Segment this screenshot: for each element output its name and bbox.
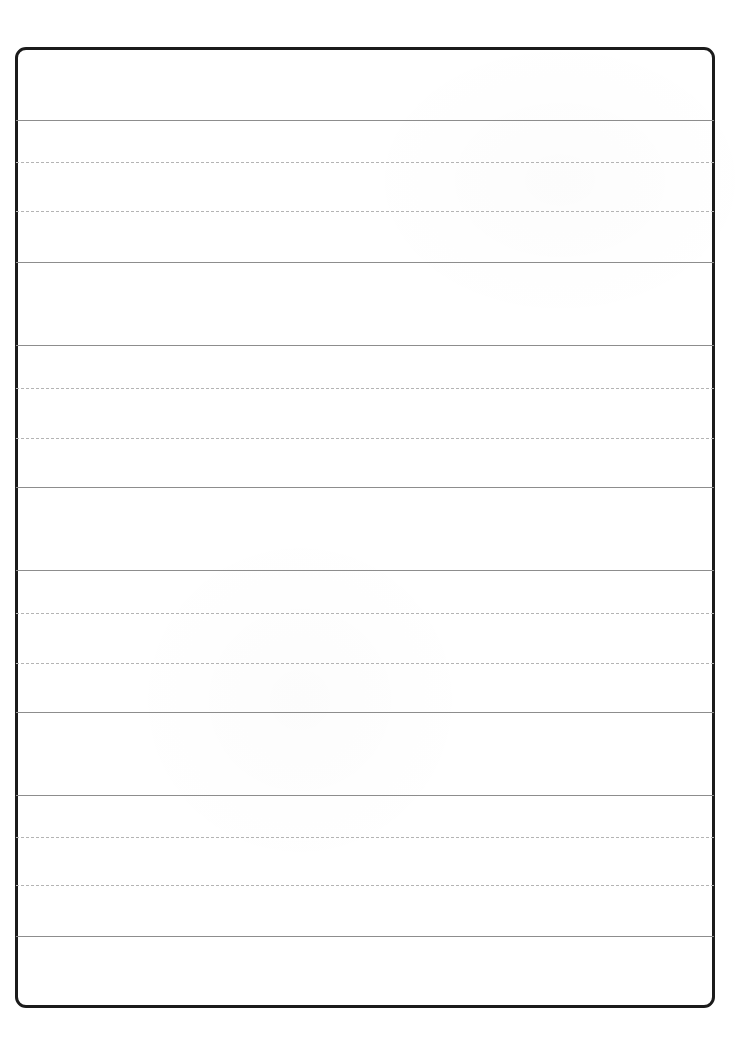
blank-gap-band[interactable] [16,47,714,120]
writing-line-band[interactable] [16,570,714,712]
blank-gap-band[interactable] [16,712,714,795]
writing-line-band[interactable] [16,345,714,487]
writing-line-band[interactable] [16,120,714,262]
blank-gap-band[interactable] [16,936,714,1008]
blank-gap-band[interactable] [16,487,714,570]
writing-line-band[interactable] [16,795,714,936]
blank-gap-band[interactable] [16,262,714,345]
worksheet-page [0,0,745,1042]
